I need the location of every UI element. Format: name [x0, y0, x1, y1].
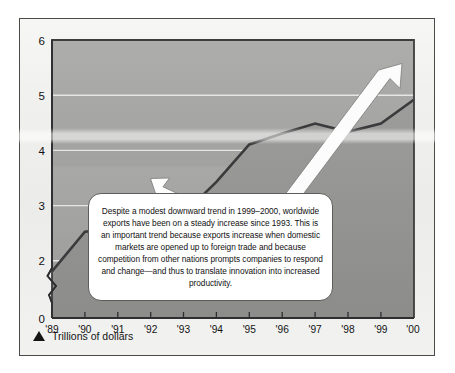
x-tick-97: '97 — [308, 324, 322, 335]
y-tick-3: 3 — [39, 200, 45, 212]
callout-text: Despite a modest downward trend in 1999–… — [89, 202, 332, 293]
x-tick-99: '99 — [374, 324, 388, 335]
x-tick-95: '95 — [243, 324, 257, 335]
y-tick-5: 5 — [39, 90, 45, 102]
legend-label: Trillions of dollars — [52, 330, 133, 342]
x-tick-94: '94 — [210, 324, 224, 335]
x-tick-98: '98 — [341, 324, 355, 335]
callout-bubble: Despite a modest downward trend in 1999–… — [88, 193, 333, 301]
up-triangle-icon — [33, 331, 45, 341]
area-chart: 6 5 4 3 2 0 '89 '90 '91 '92 '93 '94 '95 … — [19, 18, 435, 356]
x-tick-92: '92 — [144, 324, 158, 335]
y-axis-tick-labels: 6 5 4 3 2 0 — [39, 35, 46, 325]
y-tick-2: 2 — [39, 255, 45, 267]
y-tick-4: 4 — [39, 145, 46, 157]
y-tick-6: 6 — [39, 35, 45, 47]
legend: Trillions of dollars — [33, 330, 133, 342]
x-tick-93: '93 — [177, 324, 191, 335]
y-tick-0: 0 — [39, 313, 45, 325]
export-trend-figure: 6 5 4 3 2 0 '89 '90 '91 '92 '93 '94 '95 … — [0, 0, 455, 373]
x-tick-96: '96 — [276, 324, 290, 335]
x-tick-00: '00 — [406, 324, 420, 335]
